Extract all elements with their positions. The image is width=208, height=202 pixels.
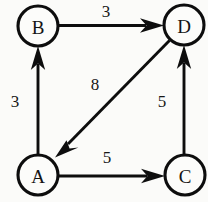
edge-weight-b-to-d: 3	[102, 2, 111, 21]
edge-d-to-a	[55, 41, 170, 158]
edge-a-to-c	[58, 169, 165, 183]
node-b-label: B	[32, 17, 45, 38]
edge-a-to-b	[31, 46, 45, 155]
edge-d-to-a-line	[68, 41, 170, 145]
edge-d-to-a-arrowhead	[55, 140, 78, 157]
node-d-label: D	[177, 16, 191, 37]
edge-b-to-d	[58, 18, 164, 32]
node-d[interactable]: D	[164, 5, 204, 45]
edge-weight-a-to-b: 3	[11, 92, 20, 111]
graph-canvas: B D A C 3 3 8 5 5	[0, 0, 208, 202]
edge-c-to-d	[177, 45, 191, 155]
graph-figure: B D A C 3 3 8 5 5	[0, 0, 208, 202]
node-c-label: C	[179, 166, 192, 187]
node-a-label: A	[31, 166, 45, 187]
edge-weight-c-to-d: 5	[158, 92, 167, 111]
node-c[interactable]: C	[165, 155, 205, 195]
node-b[interactable]: B	[18, 6, 58, 46]
edge-weight-d-to-a: 8	[91, 75, 100, 94]
edge-weight-a-to-c: 5	[103, 148, 112, 167]
node-a[interactable]: A	[18, 155, 58, 195]
